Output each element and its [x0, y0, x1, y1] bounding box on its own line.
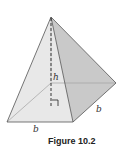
figure-caption: Figure 10.2: [48, 137, 96, 146]
pyramid-diagram: [0, 0, 119, 146]
pyramid-figure: h b b: [0, 0, 119, 146]
height-label: h: [53, 73, 59, 82]
base-right-label: b: [96, 105, 102, 114]
base-bottom-label: b: [33, 125, 39, 134]
